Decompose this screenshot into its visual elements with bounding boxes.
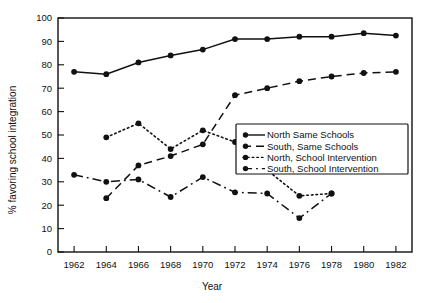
y-tick-label: 0 [47,246,52,257]
data-point-marker [136,177,142,183]
y-tick-label: 10 [41,223,52,234]
x-tick-label: 1978 [321,259,342,270]
x-tick-label: 1970 [192,259,213,270]
y-tick-label: 80 [41,59,52,70]
data-point-marker [329,74,335,80]
data-point-marker [200,127,206,133]
x-tick-label: 1980 [353,259,374,270]
x-tick-label: 1974 [257,259,278,270]
series-line-3 [74,175,331,218]
x-tick-label: 1972 [224,259,245,270]
data-point-marker [296,34,302,40]
legend-label-1: South, Same Schools [267,141,359,152]
data-point-marker [296,78,302,84]
data-point-marker [136,120,142,126]
legend-label-2: North, School Intervention [267,152,377,163]
chart-figure: 0102030405060708090100 19621964196619681… [0,0,425,303]
data-point-marker [168,53,174,59]
x-axis: 1962196419661968197019721974197619781980… [64,246,407,270]
data-point-marker [296,193,302,199]
data-point-marker [232,189,238,195]
data-point-marker [103,71,109,77]
data-point-marker [71,172,77,178]
x-tick-label: 1966 [128,259,149,270]
series-3 [71,172,334,221]
y-axis: 0102030405060708090100 [36,12,64,257]
data-point-marker [296,215,302,221]
legend-label-0: North Same Schools [267,129,354,140]
data-point-marker [103,195,109,201]
data-point-marker [168,194,174,200]
legend-label-3: South, School Intervention [267,163,378,174]
data-point-marker [264,85,270,91]
y-tick-label: 60 [41,106,52,117]
x-tick-label: 1968 [160,259,181,270]
data-point-marker [200,141,206,147]
series-0 [71,30,399,77]
data-point-marker [168,146,174,152]
x-tick-label: 1962 [64,259,85,270]
y-tick-label: 100 [36,12,52,23]
data-point-marker [393,33,399,39]
x-axis-title: Year [202,281,223,292]
data-point-marker [361,30,367,36]
y-tick-label: 20 [41,200,52,211]
x-tick-label: 1964 [96,259,117,270]
data-point-marker [361,70,367,76]
data-point-marker [71,69,77,75]
data-point-marker [168,153,174,159]
legend-marker-0 [243,132,248,137]
y-tick-label: 70 [41,83,52,94]
data-point-marker [136,163,142,169]
x-tick-label: 1976 [289,259,310,270]
line-chart-svg: 0102030405060708090100 19621964196619681… [0,0,425,303]
chart-legend: North Same SchoolsSouth, Same SchoolsNor… [236,124,408,174]
data-point-marker [200,174,206,180]
data-point-marker [393,69,399,75]
data-point-marker [103,179,109,185]
data-point-marker [136,60,142,66]
legend-marker-1 [243,144,248,149]
y-tick-label: 30 [41,176,52,187]
y-axis-title: % favoring school integration [7,86,18,214]
legend-marker-2 [243,155,248,160]
data-point-marker [264,36,270,42]
data-point-marker [329,191,335,197]
data-point-marker [200,47,206,53]
x-tick-label: 1982 [385,259,406,270]
y-tick-label: 50 [41,129,52,140]
data-point-marker [232,36,238,42]
data-point-marker [329,34,335,40]
data-point-marker [232,92,238,98]
y-tick-label: 90 [41,36,52,47]
legend-marker-3 [243,166,248,171]
data-point-marker [264,191,270,197]
y-tick-label: 40 [41,153,52,164]
data-point-marker [103,134,109,140]
